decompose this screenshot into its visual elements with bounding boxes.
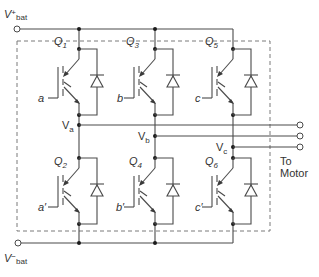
gate-label-a: a — [38, 92, 44, 104]
negative-supply-rail — [15, 240, 233, 246]
negative-supply-label: V−bat — [4, 252, 28, 266]
transistor-label-q5: Q5 — [205, 35, 219, 50]
gate-label-c-prime: c′ — [195, 201, 204, 213]
freewheel-diode-icon — [245, 76, 257, 87]
transistor-label-q3: Q3 — [126, 35, 140, 50]
gate-label-c: c — [195, 92, 201, 104]
to-motor-label-line1: To — [280, 155, 292, 167]
freewheel-diode-icon — [91, 185, 103, 196]
output-line-b — [155, 133, 303, 139]
output-terminal-a — [297, 122, 303, 128]
transistor-label-q4: Q4 — [129, 155, 143, 170]
output-terminal-b — [297, 133, 303, 139]
negative-supply-terminal — [15, 240, 21, 246]
output-line-c — [233, 144, 303, 150]
transistor-label-q2: Q2 — [54, 155, 68, 170]
output-line-a — [79, 122, 303, 128]
freewheel-diode-icon — [167, 76, 179, 87]
transistor-label-q6: Q6 — [205, 155, 219, 170]
transistor-q3 — [124, 47, 180, 117]
gate-label-b-prime: b′ — [116, 201, 125, 213]
positive-supply-label: V+bat — [4, 8, 28, 22]
positive-supply-rail — [14, 26, 233, 32]
output-label-vb: Vb — [138, 130, 150, 145]
output-label-vc: Vc — [216, 141, 227, 156]
positive-supply-terminal — [14, 26, 20, 32]
inverter-circuit-diagram: V+bat V−bat Va Vb Vc — [0, 0, 319, 277]
transistor-q5 — [202, 47, 258, 117]
transistor-label-q1: Q1 — [54, 35, 67, 50]
output-terminal-c — [297, 144, 303, 150]
to-motor-label-line2: Motor — [280, 167, 308, 179]
freewheel-diode-icon — [245, 185, 257, 196]
gate-label-a-prime: a′ — [38, 201, 47, 213]
transistor-q1 — [48, 47, 104, 117]
freewheel-diode-icon — [167, 185, 179, 196]
gate-label-b: b — [117, 92, 123, 104]
freewheel-diode-icon — [91, 76, 103, 87]
output-label-va: Va — [62, 119, 74, 134]
